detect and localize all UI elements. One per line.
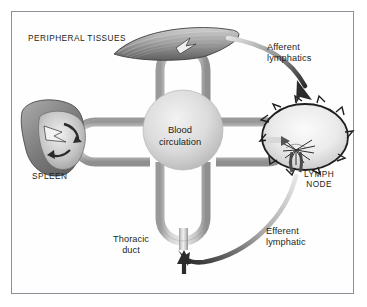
label-spleen: SPLEEN [32,172,67,182]
vessel-loop-bottom-icon [160,162,206,250]
label-thoracic-duct: Thoracic duct [113,234,149,256]
leaf-tissue-icon [114,28,239,61]
spleen-organ-icon [21,100,85,176]
label-lymph-node: LYMPH NODE [304,170,334,190]
diagram-canvas [0,0,367,307]
label-efferent-lymphatic: Efferent lymphatic [266,226,306,248]
label-afferent-lymphatics: Afferent lymphatics [267,42,311,64]
lymphatic-circulation-diagram: PERIPHERAL TISSUES SPLEEN LYMPH NODE Aff… [0,0,367,307]
label-blood-circulation: Blood circulation [138,124,222,148]
label-peripheral-tissues: PERIPHERAL TISSUES [28,34,126,44]
efferent-lymphatic-arrow-icon [178,176,296,266]
